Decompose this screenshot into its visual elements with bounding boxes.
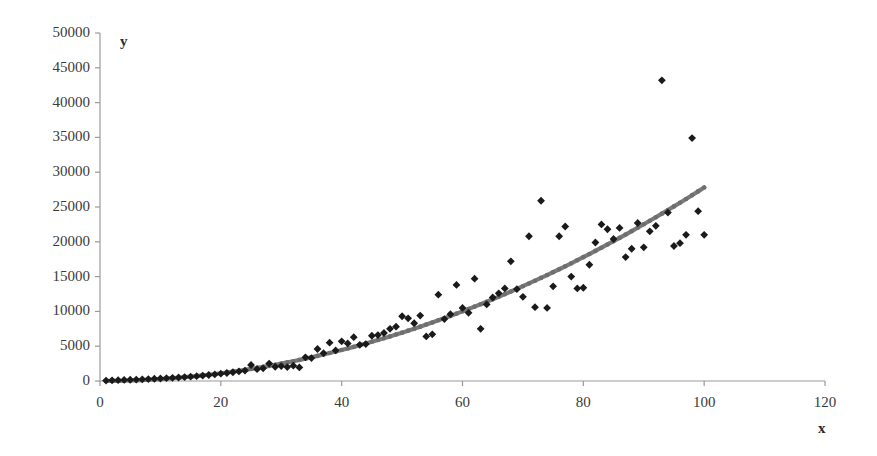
data-point-marker: [368, 332, 376, 340]
data-point-marker: [386, 325, 394, 333]
trend-line-marker: [527, 281, 532, 286]
data-point-marker: [350, 333, 358, 341]
data-point-marker: [295, 364, 303, 372]
trend-line-marker: [647, 218, 652, 223]
data-point-marker: [519, 293, 527, 301]
trend-line-marker: [545, 273, 550, 278]
y-tick-label: 20000: [53, 234, 91, 249]
trend-line-marker: [684, 197, 689, 202]
trend-line-marker: [502, 292, 507, 297]
scatter-series: [102, 76, 708, 384]
trend-line-marker: [351, 345, 356, 350]
data-point-marker: [398, 312, 406, 320]
trend-line-marker: [327, 351, 332, 356]
data-point-marker: [471, 275, 479, 283]
data-point-marker: [531, 303, 539, 311]
y-tick-label: 40000: [53, 95, 91, 110]
trend-line-marker: [370, 340, 375, 345]
trend-line-marker: [569, 261, 574, 266]
y-tick-label: 50000: [53, 25, 91, 40]
data-point-marker: [326, 339, 334, 347]
data-point-marker: [682, 231, 690, 239]
data-point-marker: [592, 239, 600, 247]
data-point-marker: [616, 224, 624, 232]
data-point-marker: [567, 273, 575, 281]
data-point-marker: [416, 312, 424, 320]
plot-canvas: [0, 0, 877, 456]
trend-line-marker: [605, 242, 610, 247]
trend-line-marker: [406, 328, 411, 333]
trend-line-marker: [623, 232, 628, 237]
data-point-marker: [507, 257, 515, 265]
trend-line-marker: [454, 311, 459, 316]
data-point-marker: [573, 285, 581, 293]
data-point-marker: [640, 243, 648, 251]
trend-line-marker: [557, 267, 562, 272]
data-point-marker: [688, 134, 696, 142]
trend-line-marker: [660, 211, 665, 216]
y-tick-label: 25000: [53, 199, 91, 214]
trend-line-marker: [400, 330, 405, 335]
y-tick-label: 45000: [53, 60, 91, 75]
trend-line-marker: [678, 200, 683, 205]
data-point-marker: [694, 207, 702, 215]
data-point-marker: [579, 284, 587, 292]
trend-line-marker: [690, 193, 695, 198]
y-tick-label: 15000: [53, 269, 91, 284]
x-tick-label: 60: [433, 395, 493, 410]
data-point-marker: [658, 76, 666, 84]
trend-line-marker: [430, 320, 435, 325]
trend-line-marker: [539, 276, 544, 281]
data-point-marker: [700, 231, 708, 239]
trend-line-marker: [563, 264, 568, 269]
trend-line-marker: [418, 324, 423, 329]
data-point-marker: [314, 345, 322, 353]
data-point-marker: [646, 227, 654, 235]
data-point-marker: [598, 221, 606, 229]
x-tick-label: 80: [553, 395, 613, 410]
trend-line-marker: [581, 255, 586, 260]
data-point-marker: [561, 223, 569, 231]
data-point-marker: [205, 371, 213, 379]
trend-line-marker: [617, 236, 622, 241]
data-point-marker: [604, 225, 612, 233]
data-point-marker: [434, 291, 442, 299]
data-point-marker: [525, 232, 533, 240]
trend-line-marker: [533, 278, 538, 283]
trend-line-marker: [551, 270, 556, 275]
y-tick-label: 0: [83, 373, 91, 388]
trend-line-marker: [672, 204, 677, 209]
trend-line-marker: [629, 229, 634, 234]
trend-line-marker: [424, 322, 429, 327]
trend-line-marker: [599, 245, 604, 250]
y-tick-label: 10000: [53, 303, 91, 318]
x-tick-label: 40: [312, 395, 372, 410]
data-point-marker: [537, 197, 545, 205]
data-point-marker: [428, 330, 436, 338]
data-point-marker: [392, 323, 400, 331]
y-tick-label: 5000: [60, 338, 90, 353]
x-tick-label: 120: [795, 395, 855, 410]
data-point-marker: [404, 314, 412, 322]
trend-line-marker: [388, 334, 393, 339]
trend-line-marker: [593, 249, 598, 254]
data-point-marker: [549, 282, 557, 290]
y-tick-label: 35000: [53, 129, 91, 144]
x-tick-label: 100: [674, 395, 734, 410]
trend-line-marker: [339, 348, 344, 353]
trend-line-marker: [394, 332, 399, 337]
trend-line-marker: [575, 258, 580, 263]
data-point-marker: [622, 253, 630, 261]
x-tick-label: 0: [70, 395, 130, 410]
trend-line: [106, 188, 704, 381]
trend-line-marker: [641, 222, 646, 227]
data-point-marker: [338, 337, 346, 345]
y-tick-label: 30000: [53, 164, 91, 179]
trend-line-marker: [654, 215, 659, 220]
trend-line-marker: [587, 252, 592, 257]
data-point-marker: [585, 261, 593, 269]
trend-line-marker: [436, 318, 441, 323]
data-point-marker: [422, 333, 430, 341]
data-point-marker: [652, 222, 660, 230]
x-tick-label: 20: [191, 395, 251, 410]
